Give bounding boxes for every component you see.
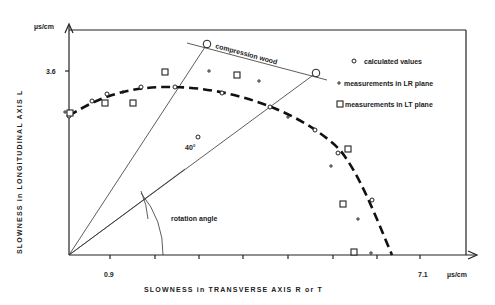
- rotation-angle-arc-inner: [141, 191, 148, 219]
- legend: calculated values measurements in LR pla…: [337, 58, 433, 109]
- calculated-curve: [69, 87, 392, 255]
- angle-40-label: 40°: [185, 144, 196, 151]
- legend-lr-label: measurements in LR plane: [344, 80, 433, 88]
- x-ticks: [110, 255, 420, 259]
- y-axis-title: SLOWNESS in LONGITUDINAL AXIS L: [16, 90, 23, 254]
- legend-calculated-label: calculated values: [364, 58, 422, 65]
- legend-lt-marker: [337, 101, 343, 107]
- legend-calculated-marker: [352, 59, 356, 63]
- x-tick-label-first: 0.9: [104, 271, 114, 278]
- y-unit-label: µs/cm: [34, 23, 54, 31]
- slowness-chart: 3.6 µs/cm 0.9 7.1 µs/cm SLOWNESS in TRAN…: [0, 0, 495, 305]
- x-axis-title: SLOWNESS in TRANSVERSE AXIS R or T: [144, 286, 323, 293]
- rotation-angle-arc: [141, 193, 163, 255]
- x-unit-label: µs/cm: [447, 271, 467, 279]
- legend-lt-label: measurements in LT plane: [345, 101, 433, 109]
- x-tick-label-last: 7.1: [418, 271, 428, 278]
- compression-wood-line: [187, 43, 327, 80]
- y-tick-label: 3.6: [46, 68, 56, 75]
- compression-wood-label: compression wood: [214, 42, 278, 66]
- legend-lr-marker: [337, 81, 341, 85]
- rotation-angle-label: rotation angle: [171, 215, 217, 223]
